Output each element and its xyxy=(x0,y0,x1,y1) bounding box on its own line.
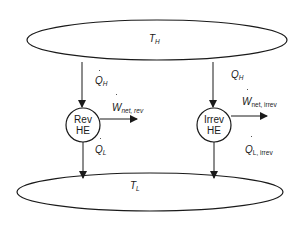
rev-work-label: Wnet, rev xyxy=(112,103,143,115)
rev-he-label: RevHE xyxy=(66,114,100,136)
irrev-heat-in-label: QH xyxy=(231,70,243,82)
irrev-heat-out-label: QL, irrev xyxy=(245,145,273,157)
cold-reservoir-label: TL xyxy=(130,181,140,193)
irrev-work-label: Wnet, irrev xyxy=(242,97,277,109)
cold-reservoir-ellipse xyxy=(17,173,283,211)
rev-heat-out-label: QL xyxy=(95,145,106,157)
hot-reservoir-label: TH xyxy=(149,34,160,46)
irrev-he-label: IrrevHE xyxy=(197,114,231,136)
rev-heat-in-label: QH xyxy=(95,76,107,88)
